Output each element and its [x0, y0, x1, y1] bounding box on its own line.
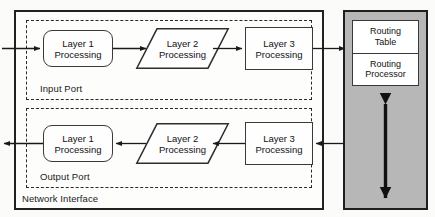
- input-layer2-line2: Processing: [159, 49, 206, 60]
- output-layer1-processing-node[interactable]: Layer 1 Processing: [43, 125, 113, 162]
- input-layer3-processing-node[interactable]: Layer 3 Processing: [245, 27, 313, 70]
- routing-processor-line2: Processor: [365, 69, 406, 80]
- routing-table-line1: Routing: [370, 26, 401, 37]
- output-layer2-line1: Layer 2: [167, 133, 199, 144]
- input-layer1-line2: Processing: [55, 49, 102, 60]
- output-layer2-processing-node[interactable]: Layer 2 Processing: [136, 123, 229, 164]
- output-layer3-line1: Layer 3: [263, 133, 295, 144]
- input-layer3-line1: Layer 3: [263, 38, 295, 49]
- input-layer1-line1: Layer 1: [62, 38, 94, 49]
- routing-table-box[interactable]: Routing Table: [353, 21, 418, 53]
- routing-table-line2: Table: [375, 37, 397, 48]
- routing-processor-line1: Routing: [370, 59, 401, 70]
- routing-processor-box[interactable]: Routing Processor: [353, 53, 418, 86]
- input-layer2-line1: Layer 2: [167, 38, 199, 49]
- input-layer2-processing-node[interactable]: Layer 2 Processing: [136, 28, 229, 69]
- input-port-label: Input Port: [40, 83, 82, 94]
- routing-stack: Routing Table Routing Processor: [352, 20, 419, 86]
- input-layer2-label: Layer 2 Processing: [136, 28, 229, 69]
- network-interface-label: Network Interface: [22, 193, 98, 204]
- output-port-label: Output Port: [40, 171, 90, 182]
- input-layer3-line2: Processing: [256, 49, 303, 60]
- input-layer1-processing-node[interactable]: Layer 1 Processing: [43, 30, 113, 67]
- output-layer1-line2: Processing: [55, 144, 102, 155]
- output-layer3-line2: Processing: [256, 144, 303, 155]
- output-layer3-processing-node[interactable]: Layer 3 Processing: [245, 122, 313, 165]
- output-layer1-line1: Layer 1: [62, 133, 94, 144]
- output-layer2-label: Layer 2 Processing: [136, 123, 229, 164]
- output-layer2-line2: Processing: [159, 144, 206, 155]
- diagram-canvas: Layer 1 Processing Layer 2 Processing La…: [0, 0, 435, 217]
